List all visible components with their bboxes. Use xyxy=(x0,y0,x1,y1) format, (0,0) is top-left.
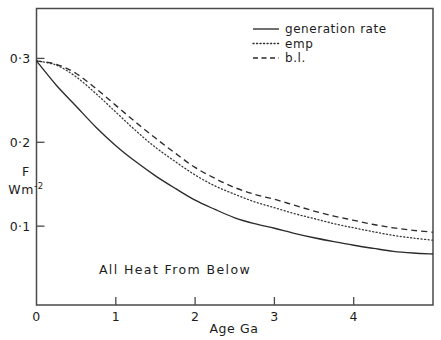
y-tick-label: 0·2 xyxy=(10,135,31,150)
data-series-group xyxy=(37,61,434,254)
y-axis-ticks xyxy=(37,58,45,226)
series-line-b-l xyxy=(37,61,434,232)
y-axis-tick-labels: 0·10·20·3 xyxy=(10,51,31,234)
line-chart-canvas: 0·10·20·3 01234 F Wm-2 Age Ga All Heat F… xyxy=(0,0,441,340)
x-axis-ticks xyxy=(116,297,354,305)
x-axis-tick-labels: 01234 xyxy=(32,309,357,324)
legend-label-2: b.l. xyxy=(285,51,306,65)
y-tick-label: 0·1 xyxy=(10,219,31,234)
x-tick-label: 2 xyxy=(191,309,199,324)
x-tick-label: 4 xyxy=(350,309,358,324)
series-line-emp xyxy=(37,61,434,240)
x-tick-label: 3 xyxy=(270,309,278,324)
y-tick-label: 0·3 xyxy=(10,51,31,66)
y-axis-label-line1: F xyxy=(22,164,30,179)
y-axis-unit-text: Wm xyxy=(8,182,34,197)
legend-label-0: generation rate xyxy=(285,22,387,36)
chart-figure: 0·10·20·3 01234 F Wm-2 Age Ga All Heat F… xyxy=(0,0,441,340)
y-axis-label-line2: Wm-2 xyxy=(8,181,43,197)
x-tick-label: 0 xyxy=(32,309,40,324)
y-axis-unit-exponent: -2 xyxy=(34,181,44,191)
axes-frame xyxy=(37,9,434,306)
chart-legend: generation rateempb.l. xyxy=(253,22,387,65)
legend-label-1: emp xyxy=(285,37,313,51)
x-tick-label: 1 xyxy=(112,309,120,324)
x-axis-label: Age Ga xyxy=(209,321,258,336)
plot-annotation: All Heat From Below xyxy=(99,262,251,277)
